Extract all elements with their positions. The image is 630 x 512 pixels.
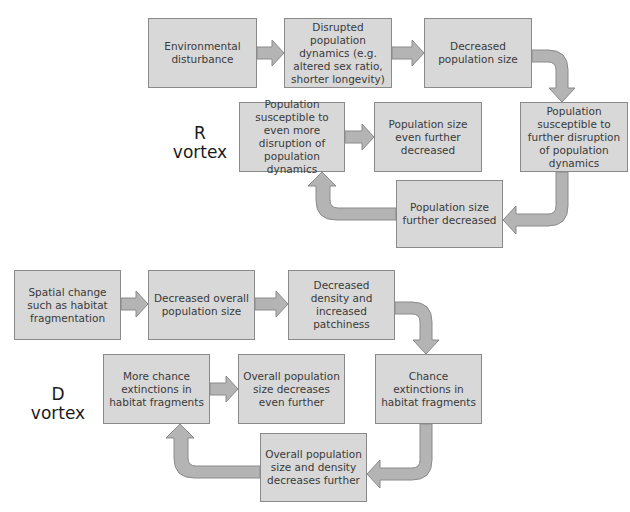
arrow-right-icon xyxy=(255,291,288,317)
box-text: Population susceptible to further disrup… xyxy=(525,105,623,170)
box-text: Decreased overall population size xyxy=(153,292,250,318)
box-overall-size-decreases-even-further: Overall population size decreases even f… xyxy=(238,354,345,424)
box-decreased-population-size: Decreased population size xyxy=(424,18,532,88)
box-overall-size-density-decreases-further: Overall population size and density decr… xyxy=(260,433,367,502)
box-disrupted-population-dynamics: Disrupted population dynamics (e.g. alte… xyxy=(284,18,392,88)
box-text: Environmental disturbance xyxy=(153,40,252,66)
box-decreased-density-increased-patchiness: Decreased density and increased patchine… xyxy=(288,270,395,340)
box-text: More chance extinctions in habitat fragm… xyxy=(108,370,205,409)
curved-arrow-down-icon xyxy=(395,302,439,354)
curved-arrow-left-icon xyxy=(503,172,568,234)
curved-arrow-up-icon xyxy=(166,424,260,478)
arrow-right-icon xyxy=(121,291,148,317)
d-vortex-label-letter: D xyxy=(28,385,88,404)
box-text: Spatial change such as habitat fragmenta… xyxy=(19,286,116,325)
curved-arrow-down-icon xyxy=(532,50,575,102)
box-text: Decreased population size xyxy=(429,40,527,66)
box-spatial-change: Spatial change such as habitat fragmenta… xyxy=(14,270,121,340)
box-text: Overall population size decreases even f… xyxy=(243,370,340,409)
arrow-right-icon xyxy=(345,124,374,150)
d-vortex-label-word: vortex xyxy=(28,404,88,423)
box-text: Chance extinctions in habitat fragments xyxy=(380,370,477,409)
box-environmental-disturbance: Environmental disturbance xyxy=(148,18,257,88)
r-vortex-label-letter: R xyxy=(170,124,230,143)
arrow-right-icon xyxy=(392,40,424,66)
d-vortex-label: D vortex xyxy=(28,385,88,423)
box-text: Population size even further decreased xyxy=(379,118,477,157)
curved-arrow-left-icon xyxy=(367,424,432,488)
box-text: Population size further decreased xyxy=(401,201,498,227)
box-more-chance-extinctions: More chance extinctions in habitat fragm… xyxy=(103,354,210,424)
r-vortex-label: R vortex xyxy=(170,124,230,162)
box-chance-extinctions: Chance extinctions in habitat fragments xyxy=(375,354,482,424)
box-text: Disrupted population dynamics (e.g. alte… xyxy=(289,21,387,86)
box-text: Overall population size and density decr… xyxy=(265,448,362,487)
box-susceptible-further-disruption: Population susceptible to further disrup… xyxy=(520,102,628,172)
box-susceptible-even-more-disruption: Population susceptible to even more disr… xyxy=(239,102,345,172)
arrow-right-icon xyxy=(210,376,238,402)
r-vortex-label-word: vortex xyxy=(170,143,230,162)
curved-arrow-up-icon xyxy=(308,172,396,220)
box-decreased-overall-population-size: Decreased overall population size xyxy=(148,270,255,340)
box-text: Decreased density and increased patchine… xyxy=(293,279,390,331)
box-text: Population susceptible to even more disr… xyxy=(244,98,340,176)
box-population-size-further-decreased: Population size further decreased xyxy=(396,180,503,248)
box-population-size-even-further-decreased: Population size even further decreased xyxy=(374,102,482,172)
arrow-right-icon xyxy=(257,40,284,66)
